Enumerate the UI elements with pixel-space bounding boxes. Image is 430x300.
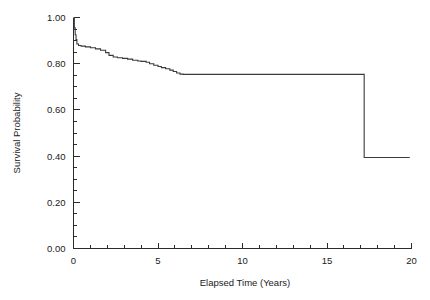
survival-curve xyxy=(74,18,410,158)
y-axis-title: Survival Probability xyxy=(11,92,22,173)
x-axis: 05101520 xyxy=(71,243,417,266)
y-tick-label: 0.00 xyxy=(47,243,66,254)
y-tick-label: 0.40 xyxy=(47,151,66,162)
x-tick-label: 15 xyxy=(322,255,333,266)
x-tick-label: 10 xyxy=(237,255,248,266)
data-series-group xyxy=(74,18,410,158)
x-tick-label: 0 xyxy=(71,255,76,266)
survival-chart: 0.000.200.400.600.801.00 05101520 Elapse… xyxy=(0,0,430,300)
y-tick-label: 1.00 xyxy=(47,12,66,23)
chart-canvas: 0.000.200.400.600.801.00 05101520 Elapse… xyxy=(0,0,430,300)
y-tick-label: 0.20 xyxy=(47,197,66,208)
x-axis-title: Elapsed Time (Years) xyxy=(200,277,290,288)
y-tick-label: 0.60 xyxy=(47,104,66,115)
y-axis: 0.000.200.400.600.801.00 xyxy=(47,12,80,254)
x-tick-label: 20 xyxy=(406,255,417,266)
y-tick-label: 0.80 xyxy=(47,58,66,69)
x-tick-label: 5 xyxy=(155,255,160,266)
